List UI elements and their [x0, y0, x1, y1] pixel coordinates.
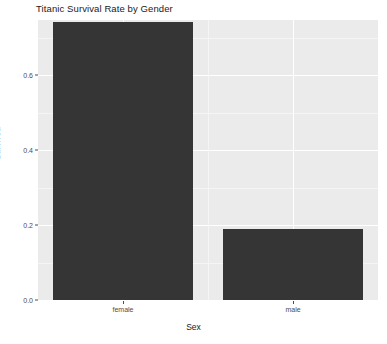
- y-tick-label: 0.6: [23, 72, 33, 79]
- x-tick-label-male: male: [285, 306, 300, 313]
- y-tick-label: 0.2: [23, 222, 33, 229]
- y-axis-title: Survived: [0, 127, 2, 160]
- x-tick-label-female: female: [112, 306, 133, 313]
- y-tick-label: 0.4: [23, 147, 33, 154]
- plot-panel: [38, 20, 378, 300]
- y-tick-mark: [35, 225, 38, 226]
- y-tick-mark: [35, 300, 38, 301]
- x-tick-mark: [293, 301, 294, 304]
- bar-female: [53, 22, 192, 300]
- y-tick-mark: [35, 75, 38, 76]
- gridline-minor-vertical: [208, 20, 209, 300]
- x-tick-mark: [123, 301, 124, 304]
- chart-title: Titanic Survival Rate by Gender: [36, 3, 173, 14]
- y-tick-label: 0.0: [23, 297, 33, 304]
- bar-male: [223, 229, 362, 300]
- chart-container: Titanic Survival Rate by Gender 0.00.20.…: [0, 0, 387, 344]
- y-axis: 0.00.20.40.6: [0, 0, 33, 344]
- y-tick-mark: [35, 150, 38, 151]
- x-axis-title: Sex: [0, 322, 387, 332]
